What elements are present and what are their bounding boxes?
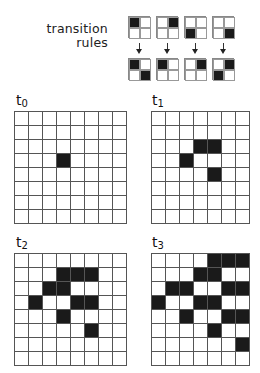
filled-cell	[57, 310, 71, 324]
empty-cell	[43, 324, 57, 338]
empty-cell	[113, 268, 127, 282]
empty-cell	[71, 310, 85, 324]
empty-cell	[99, 310, 113, 324]
empty-cell	[15, 324, 29, 338]
empty-cell	[15, 254, 29, 268]
empty-cell	[85, 140, 99, 154]
empty-cell	[99, 210, 113, 224]
empty-cell	[71, 338, 85, 352]
empty-cell	[194, 196, 208, 210]
empty-cell	[15, 352, 29, 366]
empty-cell	[71, 254, 85, 268]
empty-cell	[180, 352, 194, 366]
empty-cell	[224, 70, 235, 81]
empty-cell	[222, 140, 236, 154]
time-step-label-t0: t0	[16, 92, 28, 109]
empty-cell	[180, 168, 194, 182]
empty-cell	[43, 268, 57, 282]
empty-cell	[166, 268, 180, 282]
empty-cell	[113, 254, 127, 268]
time-step-label-t1: t1	[152, 92, 164, 109]
rule-4-before	[212, 16, 234, 38]
filled-cell	[194, 140, 208, 154]
empty-cell	[43, 154, 57, 168]
empty-cell	[140, 59, 151, 70]
empty-cell	[194, 112, 208, 126]
empty-cell	[236, 268, 250, 282]
filled-cell	[152, 296, 166, 310]
empty-cell	[168, 70, 179, 81]
empty-cell	[152, 352, 166, 366]
empty-cell	[222, 324, 236, 338]
empty-cell	[152, 282, 166, 296]
filled-cell	[157, 59, 168, 70]
rule-3-after	[184, 58, 206, 80]
empty-cell	[152, 182, 166, 196]
empty-cell	[29, 196, 43, 210]
filled-cell	[166, 282, 180, 296]
empty-cell	[129, 70, 140, 81]
empty-cell	[99, 352, 113, 366]
empty-cell	[166, 182, 180, 196]
empty-cell	[99, 282, 113, 296]
empty-cell	[15, 182, 29, 196]
empty-cell	[99, 126, 113, 140]
empty-cell	[71, 210, 85, 224]
empty-cell	[85, 168, 99, 182]
empty-cell	[113, 352, 127, 366]
empty-cell	[113, 338, 127, 352]
empty-cell	[194, 282, 208, 296]
empty-cell	[222, 338, 236, 352]
empty-cell	[166, 254, 180, 268]
label-line-rules: rules	[20, 36, 108, 50]
empty-cell	[57, 210, 71, 224]
empty-cell	[236, 352, 250, 366]
empty-cell	[166, 296, 180, 310]
empty-cell	[29, 210, 43, 224]
filled-cell	[208, 254, 222, 268]
empty-cell	[166, 338, 180, 352]
empty-cell	[43, 310, 57, 324]
grid-t1	[151, 111, 250, 224]
empty-cell	[29, 310, 43, 324]
empty-cell	[113, 310, 127, 324]
filled-cell	[29, 296, 43, 310]
filled-cell	[222, 282, 236, 296]
empty-cell	[29, 182, 43, 196]
empty-cell	[236, 168, 250, 182]
filled-cell	[222, 310, 236, 324]
empty-cell	[85, 154, 99, 168]
empty-cell	[185, 70, 196, 81]
filled-cell	[180, 154, 194, 168]
filled-cell	[236, 310, 250, 324]
filled-cell	[71, 296, 85, 310]
time-step-label-t2: t2	[16, 234, 28, 251]
empty-cell	[222, 168, 236, 182]
empty-cell	[15, 140, 29, 154]
rule-2-after	[156, 58, 178, 80]
empty-cell	[99, 140, 113, 154]
empty-cell	[57, 196, 71, 210]
empty-cell	[29, 112, 43, 126]
empty-cell	[71, 182, 85, 196]
empty-cell	[71, 140, 85, 154]
empty-cell	[29, 254, 43, 268]
empty-cell	[43, 196, 57, 210]
time-subscript: 1	[158, 98, 164, 109]
empty-cell	[236, 182, 250, 196]
filled-cell	[208, 168, 222, 182]
time-step-label-t3: t3	[152, 234, 164, 251]
empty-cell	[99, 254, 113, 268]
empty-cell	[43, 338, 57, 352]
empty-cell	[99, 112, 113, 126]
empty-cell	[157, 28, 168, 39]
grid-t2	[14, 253, 127, 366]
empty-cell	[166, 210, 180, 224]
empty-cell	[57, 168, 71, 182]
empty-cell	[222, 182, 236, 196]
empty-cell	[15, 268, 29, 282]
rule-1-after	[128, 58, 150, 80]
empty-cell	[71, 112, 85, 126]
empty-cell	[236, 140, 250, 154]
empty-cell	[180, 254, 194, 268]
